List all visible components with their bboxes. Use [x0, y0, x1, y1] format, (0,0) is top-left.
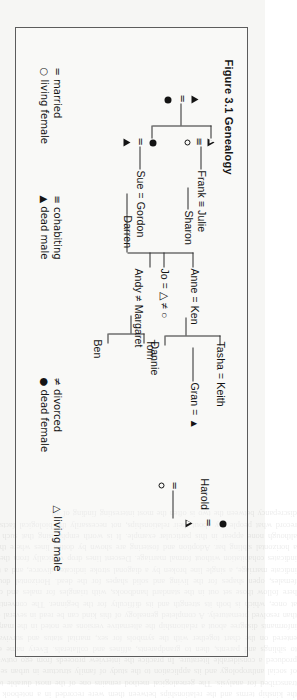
julie-partner-symbol	[208, 138, 215, 146]
gordon-symbol	[123, 138, 130, 146]
harold-mother-symbol	[219, 520, 226, 527]
legend-entry-dead-male: ▲ dead male	[37, 195, 50, 259]
harold-wife-symbol	[158, 482, 164, 488]
figure-frame: Figure 3.1 Genealogy = ≡ Frank ≡ Julie S…	[15, 27, 248, 657]
ben-descent-line	[107, 333, 108, 343]
legend-entry-cohabiting: ≡ cohabiting	[50, 195, 63, 259]
sue-gordon-relation-symbol: =	[134, 137, 144, 145]
frank-julie-relation-symbol: ≡	[193, 137, 203, 145]
anne-ken-sibling-bar	[165, 335, 220, 336]
sharon-descent-line	[187, 187, 188, 209]
sue-symbol	[149, 139, 156, 146]
harold-parents-relation-symbol: =	[202, 518, 212, 526]
legend-entry-living-male: △ living male	[50, 505, 63, 571]
gen1-mother-symbol	[164, 96, 171, 103]
legend-column-1: = married ○ living female	[37, 67, 62, 144]
figure-content: Figure 3.1 Genealogy = ≡ Frank ≡ Julie S…	[15, 27, 248, 657]
legend-entry-living-female: ○ living female	[37, 67, 50, 144]
spine-branch-anne	[192, 252, 193, 267]
anne-ken-descent-stem	[185, 317, 186, 335]
ken-to-gran-line	[192, 347, 193, 381]
figure-title: Figure 3.1 Genealogy	[222, 59, 234, 174]
harold-father-symbol	[185, 519, 192, 527]
label-tasha-keith: Tasha = Keith	[214, 341, 226, 406]
darren-descent-line	[126, 193, 127, 214]
sibling-drop-sue	[152, 125, 153, 138]
harold-union-stem	[172, 490, 173, 518]
label-andy-margaret: Andy ≠ Margaret	[132, 268, 144, 347]
frank-julie-descent-stem	[200, 146, 201, 169]
label-ben: Ben	[91, 339, 103, 358]
legend-column-3: ≠ divorced ● dead female	[37, 377, 62, 452]
spine-branch-andy	[149, 252, 150, 267]
dannie-descent-line	[164, 335, 165, 345]
label-jo-couple: Jo = △ ≠ ○	[158, 268, 170, 318]
andy-margaret-descent-stem	[130, 315, 131, 333]
andy-margaret-sibling-bar	[108, 333, 144, 334]
harold-relation-symbol: =	[168, 481, 178, 489]
sibling-drop-julie	[210, 125, 211, 138]
main-sibling-spine	[127, 252, 193, 253]
frank-symbol	[184, 139, 190, 145]
label-sue-gordon: Sue = Gordon	[134, 170, 146, 237]
legend-entry-dead-female: ● dead female	[37, 377, 50, 452]
legend-entry-married: = married	[50, 67, 63, 144]
gordon-line-to-spine	[126, 214, 127, 252]
legend-column-2: ≡ cohabiting ▲ dead male	[37, 195, 62, 259]
label-harold: Harold	[198, 478, 210, 510]
gen1-father-symbol	[191, 95, 198, 103]
legend-column-4: △ living male	[50, 505, 63, 571]
label-sharon: Sharon	[182, 210, 194, 244]
label-gran-couple: Gran = ▲	[188, 382, 200, 429]
label-dannie: Dannie	[148, 341, 160, 375]
gen1-descent-stem	[181, 103, 182, 125]
sue-gordon-descent-stem	[139, 146, 140, 169]
label-frank-julie: Frank ≡ Julie	[195, 170, 207, 232]
legend-entry-divorced: ≠ divorced	[50, 377, 63, 452]
gen1-sibling-bar	[152, 125, 211, 126]
spine-branch-jo	[163, 252, 164, 267]
scanned-page: the kinship terms and the relationships …	[0, 0, 265, 684]
gen1-relation-symbol: =	[176, 94, 186, 102]
label-anne-ken: Anne = Ken	[188, 268, 200, 324]
